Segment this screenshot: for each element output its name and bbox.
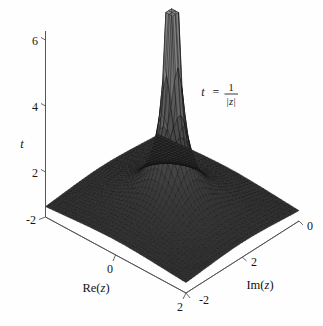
equation-denominator: |z| [226, 96, 236, 107]
vertical-axis-title: t [20, 137, 24, 151]
re-axis-title: Re(z) [82, 281, 109, 295]
re-tick-label-0: 0 [107, 262, 113, 276]
t-tick-label-4: 4 [32, 100, 38, 114]
im-axis-title-suffix: ) [269, 278, 273, 292]
plot-canvas: 2 4 6 t -2 0 2 Re(z) -2 2 0 [0, 0, 323, 326]
im-axis-title-prefix: Im( [246, 278, 264, 292]
equation-equals: = [213, 85, 220, 99]
t-tick-label-6: 6 [32, 34, 38, 48]
t-tick-label-2: 2 [32, 166, 38, 180]
im-tick-label-2: 0 [307, 219, 313, 233]
re-tick-label-neg2: -2 [26, 213, 36, 227]
im-axis-title: Im(z) [246, 278, 273, 292]
im-tick-label-neg2: -2 [199, 293, 209, 307]
im-tick-label-0: 2 [251, 255, 257, 269]
equation-numerator: 1 [228, 82, 233, 93]
re-axis-title-suffix: ) [105, 281, 109, 295]
re-tick-label-2: 2 [177, 300, 183, 314]
re-axis-title-prefix: Re( [82, 281, 100, 295]
surface-plot-figure: 2 4 6 t -2 0 2 Re(z) -2 2 0 [0, 0, 323, 326]
